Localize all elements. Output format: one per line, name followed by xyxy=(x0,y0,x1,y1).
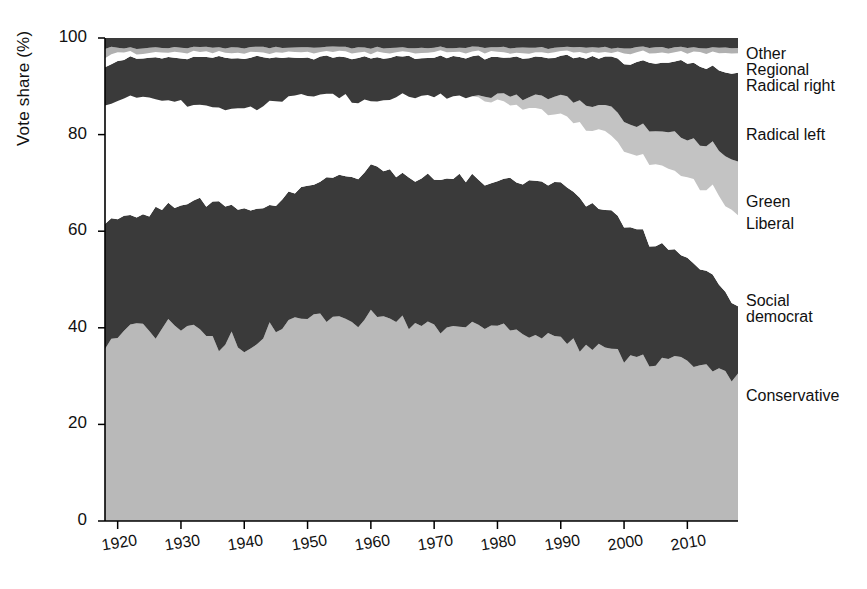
x-tick-label: 1920 xyxy=(92,530,146,556)
chart-figure: Vote share (%) 020406080100 192019301940… xyxy=(0,0,867,589)
y-tick-label: 60 xyxy=(35,220,87,240)
plot-area xyxy=(105,38,738,521)
x-tick-label: 1940 xyxy=(219,530,273,556)
x-tick-label: 1930 xyxy=(155,530,209,556)
y-tick-label: 0 xyxy=(35,510,87,530)
x-tick-label: 1970 xyxy=(408,530,462,556)
legend-label-radical-right: Radical right xyxy=(746,77,835,95)
x-tick-label: 1980 xyxy=(472,530,526,556)
x-tick-label: 2000 xyxy=(598,530,652,556)
stacked-area-plot xyxy=(105,38,738,521)
legend-label-liberal: Liberal xyxy=(746,215,794,233)
y-axis-title: Vote share (%) xyxy=(14,0,34,146)
y-tick-label: 40 xyxy=(35,317,87,337)
legend-label-green: Green xyxy=(746,193,790,211)
x-tick-label: 1950 xyxy=(282,530,336,556)
y-tick-label: 80 xyxy=(35,124,87,144)
legend-label-conservative: Conservative xyxy=(746,387,839,405)
x-tick-label: 2010 xyxy=(662,530,716,556)
x-tick-label: 1960 xyxy=(345,530,399,556)
x-tick-label: 1990 xyxy=(535,530,589,556)
legend-label-democrat: democrat xyxy=(746,308,813,326)
y-tick-label: 20 xyxy=(35,413,87,433)
y-tick-label: 100 xyxy=(35,27,87,47)
legend-label-radical-left: Radical left xyxy=(746,126,825,144)
